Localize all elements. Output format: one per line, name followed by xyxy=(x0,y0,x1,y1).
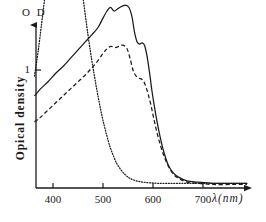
series-solid-curve xyxy=(35,5,248,183)
axes xyxy=(36,25,244,188)
data-series-group xyxy=(35,0,248,185)
series-dashed-curve xyxy=(35,45,248,184)
x-tick-label: 700 xyxy=(188,193,218,205)
chart-figure: O D Opical density λ(nm) 400500600700 1 xyxy=(0,0,266,222)
y-axis-title: Opical density xyxy=(14,58,26,178)
od-axis-caption: O D xyxy=(22,6,47,18)
x-tick-label: 400 xyxy=(38,193,68,205)
x-tick-label: 500 xyxy=(88,193,118,205)
y-tick-label: 1 xyxy=(16,63,30,75)
plot-area xyxy=(0,0,266,222)
x-tick-label: 600 xyxy=(138,193,168,205)
series-dotted-peak-curve xyxy=(35,0,248,183)
